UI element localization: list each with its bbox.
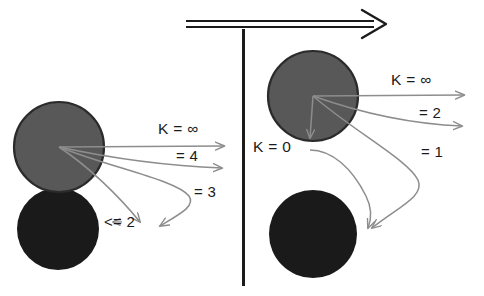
right-panel bbox=[268, 51, 464, 278]
diagram-canvas: K = ∞ = 4 = 3 <= 2 K = ∞ = 2 = 1 K = 0 bbox=[0, 0, 484, 296]
right-dark-sphere bbox=[269, 190, 357, 278]
figure-svg bbox=[0, 0, 484, 296]
left-label-k-3: = 3 bbox=[194, 184, 216, 199]
left-label-k-infinity: K = ∞ bbox=[158, 121, 199, 137]
right-label-k-2: = 2 bbox=[419, 105, 441, 120]
left-dark-sphere bbox=[17, 188, 99, 270]
left-label-k-2: <= 2 bbox=[104, 214, 135, 229]
right-label-k-1: = 1 bbox=[421, 144, 443, 159]
left-vector-k-infinity bbox=[59, 146, 224, 147]
right-label-k-infinity: K = ∞ bbox=[391, 72, 432, 88]
double-line-arrow bbox=[186, 10, 386, 38]
left-label-k-4: = 4 bbox=[176, 148, 198, 163]
right-vector-k-infinity bbox=[313, 95, 464, 96]
right-label-k-0: K = 0 bbox=[253, 139, 291, 155]
